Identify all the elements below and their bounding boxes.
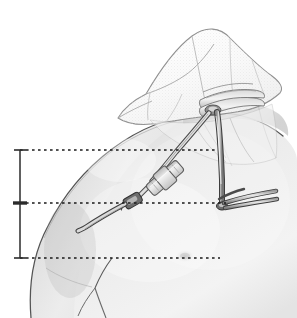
illustration-canvas [0,0,297,318]
vertical-measurement-scale [13,150,27,258]
medical-illustration-figure: Tunneled central venous catheter placeme… [0,0,297,318]
nipple-landmark [176,250,194,262]
